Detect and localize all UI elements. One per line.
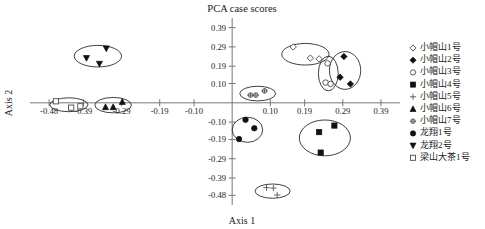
data-point bbox=[328, 81, 334, 87]
legend-item[interactable]: 小帽山4号 bbox=[410, 78, 460, 89]
legend-item-label: 梁山大茶1号 bbox=[420, 151, 470, 162]
series-points bbox=[236, 117, 257, 142]
cluster-ellipses-layer bbox=[50, 43, 361, 198]
legend-item-label: 小帽山7号 bbox=[420, 114, 461, 125]
legend-item[interactable]: 小帽山7号 bbox=[410, 114, 461, 125]
legend-item[interactable]: 小帽山5号 bbox=[410, 90, 461, 101]
y-tick-label: -0.39 bbox=[208, 173, 226, 183]
data-point bbox=[307, 55, 313, 61]
pca-scatter-plot: PCA case scores -0.48-0.39-0.29-0.19-0.1… bbox=[0, 0, 485, 229]
data-point bbox=[78, 104, 83, 109]
legend-item-label: 小帽山5号 bbox=[420, 90, 461, 101]
legend: 小帽山1号小帽山2号小帽山3号小帽山4号小帽山5号小帽山6号小帽山7号龙翔1号龙… bbox=[410, 41, 470, 162]
legend-item[interactable]: 小帽山3号 bbox=[410, 65, 460, 76]
legend-item[interactable]: 龙翔2号 bbox=[410, 139, 451, 150]
data-point bbox=[103, 46, 109, 52]
series-points bbox=[290, 44, 322, 62]
cluster-ellipse bbox=[255, 184, 290, 198]
x-axis-title: Axis 1 bbox=[229, 215, 255, 226]
data-point bbox=[318, 150, 323, 155]
legend-item[interactable]: 小帽山2号 bbox=[410, 53, 461, 64]
data-point bbox=[253, 93, 259, 98]
legend-item[interactable]: 小帽山1号 bbox=[410, 41, 461, 52]
y-tick-label: -0.48 bbox=[208, 190, 226, 200]
y-tick-label: 0.39 bbox=[211, 23, 226, 33]
x-tick-label: 0.29 bbox=[335, 106, 350, 116]
series-points bbox=[247, 89, 268, 98]
legend-marker-icon bbox=[410, 82, 415, 87]
legend-marker-icon bbox=[410, 119, 416, 123]
data-point bbox=[341, 53, 347, 59]
legend-item-label: 龙翔2号 bbox=[420, 139, 452, 150]
data-point bbox=[236, 136, 242, 142]
legend-item-label: 小帽山6号 bbox=[420, 102, 461, 113]
series-points bbox=[323, 61, 333, 87]
cluster-ellipse bbox=[299, 120, 350, 156]
cluster-ellipse bbox=[282, 43, 329, 65]
series-points bbox=[317, 123, 338, 155]
data-point bbox=[252, 126, 258, 132]
data-point bbox=[102, 104, 108, 110]
legend-marker-icon bbox=[410, 131, 415, 136]
data-point bbox=[270, 185, 276, 191]
data-point bbox=[274, 192, 280, 198]
chart-title-group: PCA case scores bbox=[207, 3, 276, 14]
legend-item-label: 小帽山2号 bbox=[420, 53, 461, 64]
data-point bbox=[325, 61, 331, 67]
y-axis-title: Axis 2 bbox=[3, 90, 14, 116]
y-tick-label: -0.10 bbox=[208, 117, 226, 127]
x-tick-label: 0.19 bbox=[297, 106, 312, 116]
legend-marker-icon bbox=[410, 94, 416, 100]
data-point bbox=[317, 130, 322, 135]
data-point bbox=[347, 81, 353, 87]
legend-item-label: 小帽山1号 bbox=[420, 41, 461, 52]
data-point bbox=[96, 61, 102, 67]
legend-marker-icon bbox=[410, 106, 416, 112]
data-point bbox=[263, 184, 269, 190]
x-tick-label: 0.39 bbox=[373, 106, 388, 116]
legend-marker-icon bbox=[410, 45, 416, 51]
legend-marker-icon bbox=[410, 143, 416, 149]
legend-marker-icon bbox=[410, 155, 415, 160]
series-points bbox=[83, 46, 109, 67]
data-point bbox=[332, 123, 337, 128]
x-tick-label: -0.10 bbox=[185, 106, 203, 116]
series-points bbox=[337, 53, 354, 87]
y-tick-label: 0.19 bbox=[211, 61, 226, 71]
y-tick-label: 0.10 bbox=[211, 79, 226, 89]
y-tick-label: -0.29 bbox=[208, 154, 226, 164]
data-point bbox=[261, 89, 267, 94]
pca-chart-figure: PCA case scores -0.48-0.39-0.29-0.19-0.1… bbox=[0, 0, 485, 229]
legend-item-label: 小帽山3号 bbox=[420, 65, 461, 76]
legend-item[interactable]: 龙翔1号 bbox=[410, 126, 451, 137]
data-point bbox=[243, 117, 249, 123]
series-points bbox=[263, 184, 280, 198]
data-point bbox=[83, 56, 89, 62]
legend-item[interactable]: 小帽山6号 bbox=[410, 102, 460, 113]
data-point bbox=[53, 99, 58, 104]
data-point bbox=[69, 105, 74, 110]
legend-item-label: 龙翔1号 bbox=[420, 126, 452, 137]
y-tick-label: 0.29 bbox=[211, 42, 226, 52]
legend-marker-icon bbox=[410, 57, 416, 63]
page-title: PCA case scores bbox=[207, 3, 276, 14]
x-tick-label: -0.48 bbox=[40, 106, 58, 116]
tick-labels-layer: -0.48-0.39-0.29-0.19-0.100.100.190.290.3… bbox=[40, 23, 388, 201]
x-tick-label: 0.10 bbox=[263, 106, 278, 116]
legend-item[interactable]: 梁山大茶1号 bbox=[410, 151, 469, 162]
x-tick-label: -0.19 bbox=[151, 106, 169, 116]
y-tick-label: -0.19 bbox=[208, 134, 226, 144]
legend-item-label: 小帽山4号 bbox=[420, 78, 461, 89]
legend-marker-icon bbox=[410, 70, 415, 75]
